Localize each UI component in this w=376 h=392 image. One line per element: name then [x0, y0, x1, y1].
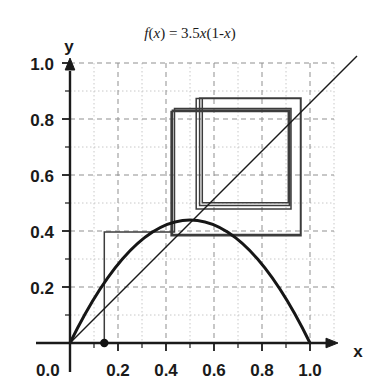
title-tail-open: (1-: [207, 25, 225, 42]
initial-point-marker: [100, 339, 108, 347]
chart-title: f(x) = 3.5x(1-x): [144, 25, 235, 42]
logistic-curve: [70, 220, 310, 343]
y-axis-arrowhead: [65, 58, 75, 70]
axis-ticks: [62, 63, 310, 351]
x-tick-label-5: 1.0: [298, 361, 322, 380]
x-tick-label-2: 0.4: [154, 361, 178, 380]
y-axis-label: y: [64, 37, 74, 56]
y-tick-label-1: 1.0: [30, 55, 54, 74]
y-tick-label-3: 0.6: [30, 167, 54, 186]
cobweb-diagram: 1.0 0.8 0.6 0.4 0.2 0.0 0.2 0.4 0.6 0.8 …: [0, 0, 376, 392]
axis-lines: [36, 58, 338, 372]
x-tick-label-3: 0.6: [202, 361, 226, 380]
chart-page: 1.0 0.8 0.6 0.4 0.2 0.0 0.2 0.4 0.6 0.8 …: [0, 0, 376, 392]
x-axis-arrowhead: [326, 338, 338, 348]
origin-tick-label: 0.0: [36, 361, 60, 380]
x-axis-label: x: [353, 342, 363, 361]
title-equals: = 3.5: [165, 25, 200, 41]
y-tick-label-5: 0.2: [30, 279, 54, 298]
title-tail-close: ): [231, 25, 236, 42]
y-tick-label-4: 0.4: [30, 223, 54, 242]
y-tick-label-2: 0.8: [30, 111, 54, 130]
x-tick-label-4: 0.8: [250, 361, 274, 380]
x-tick-label-1: 0.2: [106, 361, 130, 380]
